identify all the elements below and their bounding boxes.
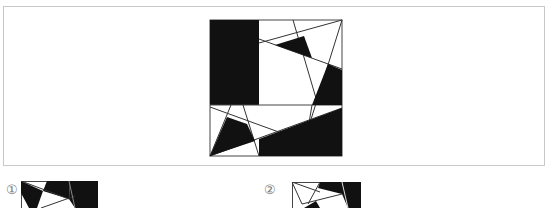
square-dissection-figure	[209, 19, 344, 158]
option-2-figure-image	[292, 182, 362, 208]
option-2-label[interactable]: ②	[264, 183, 276, 197]
option-2-figure[interactable]	[292, 182, 362, 208]
option-1-figure-image	[21, 181, 99, 208]
option-1-figure[interactable]	[21, 181, 99, 208]
option-1-label[interactable]: ①	[6, 183, 18, 197]
question-figure	[209, 19, 344, 158]
